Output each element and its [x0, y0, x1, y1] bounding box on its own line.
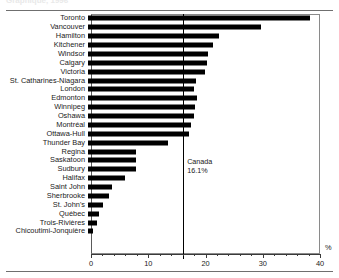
bar-row-label: Calgary: [0, 59, 88, 67]
bar-cell: [88, 121, 339, 130]
bar-row-label: Thunder Bay: [0, 139, 88, 147]
bar-row: Oshawa: [0, 112, 339, 121]
bar-cell: [88, 76, 339, 85]
bar-row-label: Winnipeg: [0, 103, 88, 111]
bar: [88, 60, 207, 65]
bar-rows: TorontoVancouverHamiltonKitchenerWindsor…: [0, 14, 339, 254]
x-tick-label: 20: [201, 259, 209, 268]
x-tick-minor: [137, 254, 138, 256]
bar-row: Ottawa-Hull: [0, 129, 339, 138]
x-tick-label: 10: [144, 259, 152, 268]
bar-chart: Graphique, 1996 TorontoVancouverHamilton…: [0, 0, 339, 278]
bar-row: Calgary: [0, 58, 339, 67]
bar-row-label: Windsor: [0, 50, 88, 58]
bar-row-label: Halifax: [0, 174, 88, 182]
x-tick-minor: [309, 254, 310, 256]
bar: [88, 122, 191, 127]
bar: [88, 105, 195, 110]
x-tick-label: 40: [316, 259, 324, 268]
canada-reference-name: Canada: [187, 157, 212, 166]
bar-row: St. John's: [0, 200, 339, 209]
bar-cell: [88, 183, 339, 192]
x-tick-minor: [114, 254, 115, 256]
bar-row-label: Vancouver: [0, 23, 88, 31]
bar-row-label: Trois-Rivières: [0, 219, 88, 227]
x-tick-major: [320, 254, 321, 258]
bar-row-label: Hamilton: [0, 32, 88, 40]
bar-cell: [88, 209, 339, 218]
x-tick-minor: [251, 254, 252, 256]
bar-row-label: St. John's: [0, 201, 88, 209]
bar-cell: [88, 174, 339, 183]
x-tick-minor: [228, 254, 229, 256]
bar-row-label: Montréal: [0, 121, 88, 129]
bar-row: Thunder Bay: [0, 138, 339, 147]
bar-row: Vancouver: [0, 23, 339, 32]
bar-row-label: Kitchener: [0, 41, 88, 49]
bar-row-label: Saint John: [0, 183, 88, 191]
bar: [88, 114, 194, 119]
bar-row: Winnipeg: [0, 103, 339, 112]
bar-row-label: Saskatoon: [0, 156, 88, 164]
bar-row-label: Toronto: [0, 14, 88, 22]
bar-cell: [88, 138, 339, 147]
bar: [88, 16, 310, 21]
canada-reference-value: 16.1%: [187, 166, 207, 175]
bar-cell: [88, 32, 339, 41]
bar-cell: [88, 192, 339, 201]
x-tick-major: [148, 254, 149, 258]
bar-cell: [88, 200, 339, 209]
bar-cell: [88, 129, 339, 138]
bar: [88, 51, 208, 56]
bar: [88, 78, 196, 83]
bar-row-label: Sherbrooke: [0, 192, 88, 200]
bar-row-label: London: [0, 85, 88, 93]
bar-cell: [88, 50, 339, 59]
bar: [88, 87, 194, 92]
x-tick-major: [206, 254, 207, 258]
bar: [88, 43, 213, 48]
bar-row: Sudbury: [0, 165, 339, 174]
bar-row: Saskatoon: [0, 156, 339, 165]
x-tick-label: 0: [89, 259, 93, 268]
bar: [88, 34, 219, 39]
bar: [88, 211, 99, 216]
bar-cell: [88, 165, 339, 174]
x-tick-minor: [102, 254, 103, 256]
bar-row-label: Chicoutimi-Jonquière: [0, 227, 88, 235]
bar: [88, 229, 93, 234]
x-tick-minor: [217, 254, 218, 256]
x-tick-minor: [171, 254, 172, 256]
bar-row-label: Québec: [0, 210, 88, 218]
x-tick-minor: [297, 254, 298, 256]
x-tick-minor: [160, 254, 161, 256]
bar-row-label: St. Catharines-Niagara: [0, 77, 88, 85]
bar-cell: [88, 103, 339, 112]
bar-row-label: Ottawa-Hull: [0, 130, 88, 138]
bar-cell: [88, 147, 339, 156]
bar-row: Kitchener: [0, 41, 339, 50]
bar: [88, 149, 136, 154]
bar-cell: [88, 218, 339, 227]
bar-cell: [88, 67, 339, 76]
bar-cell: [88, 58, 339, 67]
bar-row-label: Oshawa: [0, 112, 88, 120]
x-tick-major: [263, 254, 264, 258]
x-tick-major: [91, 254, 92, 258]
bar: [88, 193, 109, 198]
bar-cell: [88, 85, 339, 94]
bar: [88, 158, 136, 163]
bar-row: Hamilton: [0, 32, 339, 41]
canada-reference-line: [183, 14, 184, 259]
bar-row: Sherbrooke: [0, 192, 339, 201]
bar: [88, 220, 97, 225]
chart-title-strip: Graphique, 1996: [0, 0, 339, 7]
x-tick-label: 30: [259, 259, 267, 268]
bar: [88, 69, 205, 74]
bar: [88, 140, 168, 145]
x-tick-minor: [240, 254, 241, 256]
bar-row: Chicoutimi-Jonquière: [0, 227, 339, 236]
bar: [88, 176, 125, 181]
bar-cell: [88, 94, 339, 103]
bar-row-label: Victoria: [0, 68, 88, 76]
